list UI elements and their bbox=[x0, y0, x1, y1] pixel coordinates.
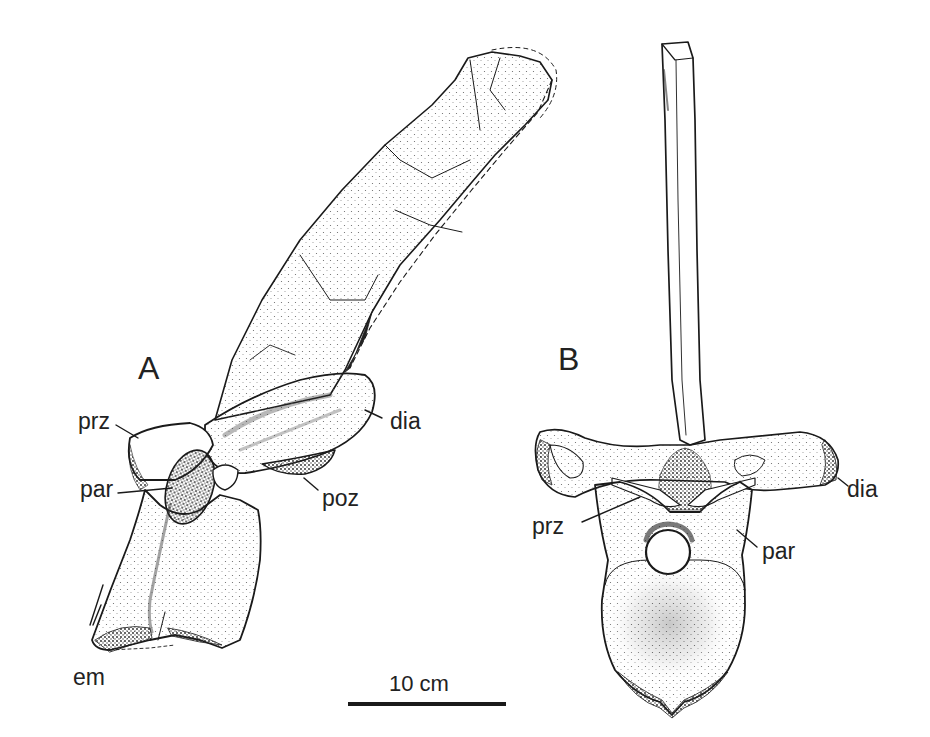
annotation-a-poz: poz bbox=[322, 487, 359, 510]
annotation-a-par: par bbox=[80, 478, 113, 501]
annotation-b-par: par bbox=[762, 540, 795, 563]
annotation-a-dia: dia bbox=[390, 410, 421, 433]
vertebra-figure: A B prz par em dia poz dia prz par 10 cm bbox=[0, 0, 930, 737]
panel-label-b: B bbox=[558, 343, 579, 375]
annotation-a-prz: prz bbox=[78, 410, 110, 433]
annotation-b-prz: prz bbox=[532, 515, 564, 538]
scale-bar bbox=[348, 702, 506, 706]
panel-label-a: A bbox=[138, 352, 159, 384]
annotation-a-em: em bbox=[73, 666, 105, 689]
panel-b-drawing bbox=[535, 42, 848, 718]
scale-bar-label: 10 cm bbox=[389, 673, 449, 695]
panel-a-drawing bbox=[90, 48, 557, 653]
annotation-b-dia: dia bbox=[847, 478, 878, 501]
